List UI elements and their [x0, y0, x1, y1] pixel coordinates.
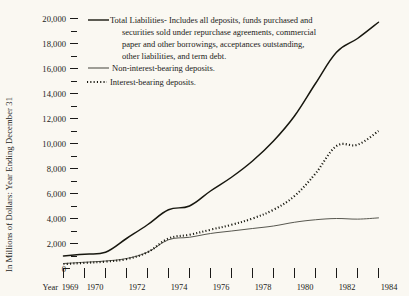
- x-tick-label-1982: 1982: [339, 283, 356, 292]
- x-tick-label-1972: 1972: [129, 283, 146, 292]
- x-tick-label-1969: 1969: [62, 283, 79, 292]
- y-tick-label-4000: 4,000: [47, 214, 66, 224]
- series-line-non-interest-bearing-deposits: [64, 218, 379, 264]
- y-tick-label-20000: 20,000: [42, 14, 66, 24]
- legend-label-total-liabilities-line1: Total Liabilities- Includes all deposits…: [110, 15, 313, 25]
- line-chart-figure: In Millions of Dollars: Year Ending Dece…: [0, 0, 409, 296]
- chart-legend: Total Liabilities- Includes all deposits…: [87, 15, 317, 87]
- y-tick-label-10000: 10,000: [42, 139, 66, 149]
- y-tick-label-6000: 6,000: [47, 189, 66, 199]
- x-axis-title: Year: [43, 283, 59, 292]
- y-tick-label-16000: 16,000: [42, 64, 66, 74]
- legend-label-non-interest-bearing: Non-interest-bearing deposits.: [112, 63, 215, 73]
- y-tick-label-14000: 14,000: [42, 89, 66, 99]
- x-axis-ticks: [85, 268, 379, 278]
- series-line-interest-bearing-deposits: [64, 131, 379, 264]
- x-tick-label-1978: 1978: [255, 283, 272, 292]
- x-tick-label-1970: 1970: [87, 283, 104, 292]
- y-axis-title: In Millions of Dollars: Year Ending Dece…: [4, 97, 14, 272]
- x-tick-label-1984: 1984: [381, 283, 399, 292]
- y-tick-label-12000: 12,000: [42, 114, 66, 124]
- legend-label-interest-bearing: Interest-bearing deposits.: [110, 77, 196, 87]
- chart-container: In Millions of Dollars: Year Ending Dece…: [0, 0, 409, 296]
- y-tick-label-2000: 2,000: [47, 239, 66, 249]
- x-tick-label-1980: 1980: [297, 283, 314, 292]
- x-tick-label-1976: 1976: [213, 283, 230, 292]
- x-tick-label-1974: 1974: [171, 283, 189, 292]
- legend-label-total-liabilities-line4: other liabilities, and term debt.: [122, 51, 226, 61]
- legend-label-total-liabilities-line3: paper and other borrowings, acceptances …: [122, 39, 304, 49]
- y-tick-label-8000: 8,000: [47, 164, 66, 174]
- y-tick-label-18000: 18,000: [42, 39, 66, 49]
- legend-label-total-liabilities-line2: securities sold under repurchase agreeme…: [122, 27, 317, 37]
